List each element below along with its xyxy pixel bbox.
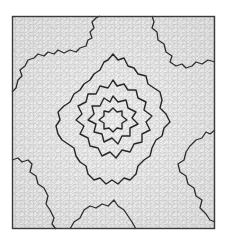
voronoi-figure: [0, 0, 226, 240]
mesh-diagram: [0, 0, 226, 240]
